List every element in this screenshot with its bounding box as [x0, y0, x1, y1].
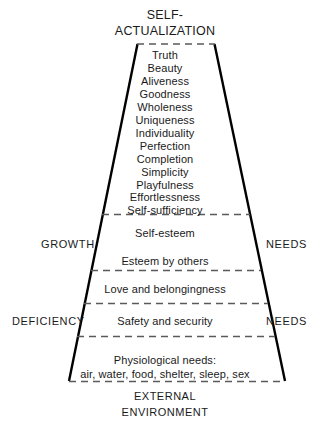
- being-value-item: Beauty: [0, 62, 330, 75]
- being-value-item: Completion: [0, 153, 330, 166]
- tier-label-physiological-needs: Physiological needs:: [0, 355, 330, 366]
- being-value-item: Goodness: [0, 88, 330, 101]
- being-value-item: Aliveness: [0, 75, 330, 88]
- being-value-item: Truth: [0, 49, 330, 62]
- title-line-2: ACTUALIZATION: [0, 25, 330, 38]
- being-value-item: Effortlessness: [0, 191, 330, 204]
- being-value-item: Perfection: [0, 140, 330, 153]
- side-label-growth-left: GROWTH: [41, 239, 95, 250]
- being-value-item: Playfulness: [0, 179, 330, 192]
- being-value-item: Uniqueness: [0, 114, 330, 127]
- being-values-list: Truth Beauty Aliveness Goodness Wholenes…: [0, 49, 330, 217]
- tier-label-esteem-by-others: Esteem by others: [0, 256, 330, 267]
- tier-label-love-and-belongingness: Love and belongingness: [0, 284, 330, 295]
- being-value-item: Self-sufficiency: [0, 204, 330, 217]
- title-line-1: SELF-: [0, 9, 330, 22]
- being-value-item: Wholeness: [0, 101, 330, 114]
- tier-label-physiological-examples: air, water, food, shelter, sleep, sex: [0, 369, 330, 380]
- side-label-deficiency-left: DEFICIENCY: [12, 316, 85, 327]
- caption-line-2: ENVIRONMENT: [0, 407, 330, 418]
- being-value-item: Individuality: [0, 127, 330, 140]
- maslow-hierarchy-diagram: SELF- ACTUALIZATION Truth Beauty Alivene…: [0, 0, 330, 428]
- side-label-deficiency-right-needs: NEEDS: [266, 316, 307, 327]
- side-label-growth-right-needs: NEEDS: [266, 239, 307, 250]
- caption-line-1: EXTERNAL: [0, 391, 330, 402]
- being-value-item: Simplicity: [0, 166, 330, 179]
